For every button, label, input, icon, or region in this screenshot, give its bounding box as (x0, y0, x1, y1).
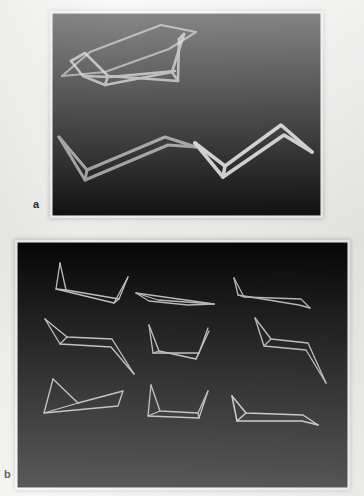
shape-b-4-segment-2 (45, 319, 134, 374)
shape-b-8-segment-4 (198, 413, 199, 418)
shape-a-2-segment-1 (62, 25, 196, 76)
shape-b-4-segment-3 (60, 337, 67, 344)
shape-a-4 (195, 125, 312, 177)
shape-a-4-segment-3 (223, 166, 225, 177)
shape-b-2-segment-1 (136, 293, 214, 304)
shape-b-5 (149, 325, 209, 359)
shape-b-3-segment-1 (234, 278, 310, 308)
shape-b-8-segment-3 (148, 411, 160, 416)
shape-b-3 (234, 278, 310, 308)
shape-a-1 (71, 34, 184, 85)
shape-a-3 (59, 137, 196, 180)
shape-b-2 (136, 293, 214, 305)
shape-b-6 (255, 318, 326, 383)
shape-b-5-segment-1 (149, 325, 209, 359)
shape-b-4-segment-1 (45, 319, 134, 374)
panel-label-a: a (33, 199, 39, 210)
shape-b-1 (56, 263, 128, 303)
shape-b-7-segment-1 (53, 379, 123, 403)
shape-a-4-segment-1 (195, 125, 312, 166)
shape-a-2 (62, 25, 196, 76)
shape-b-3-segment-2 (234, 278, 310, 308)
shape-b-8-segment-1 (151, 385, 208, 413)
shape-b-4 (45, 319, 134, 374)
shape-a-3-segment-2 (59, 137, 196, 180)
shape-b-9-segment-3 (237, 413, 246, 421)
shape-b-7-segment-2 (44, 379, 123, 413)
shape-b-5-segment-4 (196, 353, 199, 359)
panel-label-b: b (4, 469, 11, 480)
shape-b-6-segment-2 (255, 318, 326, 383)
panel-a (53, 14, 320, 215)
panel-b-canvas (18, 243, 347, 487)
panel-a-canvas (53, 14, 320, 215)
shape-a-3-segment-3 (85, 170, 87, 180)
shape-b-6-segment-1 (255, 318, 326, 383)
panel-b (18, 243, 347, 487)
figure-root: a b (0, 0, 364, 496)
shape-a-3-segment-1 (59, 137, 196, 170)
shape-b-8 (148, 385, 208, 418)
shape-b-7 (44, 379, 123, 413)
shape-b-9 (232, 396, 318, 425)
shape-b-1-segment-2 (56, 263, 128, 303)
shape-b-6-segment-3 (264, 339, 271, 346)
shape-b-1-segment-1 (60, 263, 128, 299)
